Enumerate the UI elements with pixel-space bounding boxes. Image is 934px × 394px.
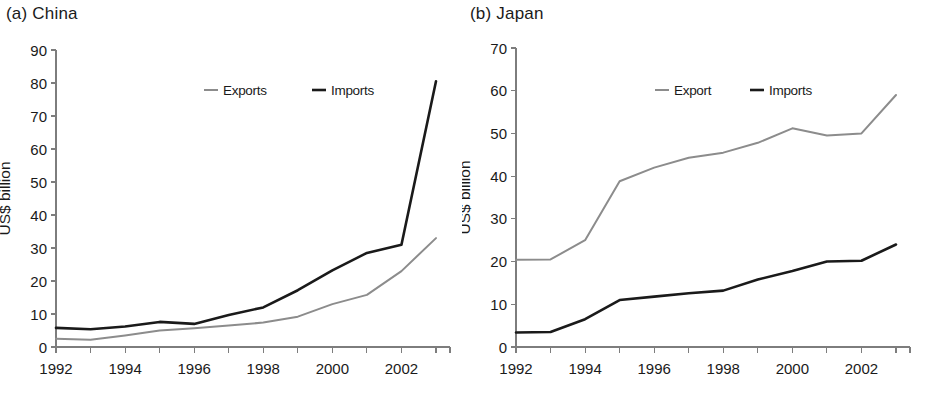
y-axis-title: US$ billion: [0, 161, 13, 235]
series-line-export: [516, 95, 896, 260]
chart-panel-china: (a) China 010203040506070809019921994199…: [0, 0, 467, 394]
line-chart-china: 0102030405060708090199219941996199820002…: [0, 0, 467, 394]
y-tick-label: 10: [490, 296, 507, 313]
y-tick-label: 70: [30, 108, 47, 125]
line-chart-japan: 010203040506070199219941996199820002002U…: [462, 0, 934, 394]
y-tick-label: 30: [30, 240, 47, 257]
y-tick-label: 50: [30, 174, 47, 191]
y-tick-label: 20: [30, 273, 47, 290]
y-tick-label: 0: [39, 339, 47, 356]
x-tick-label: 2000: [776, 360, 809, 377]
series-line-imports: [56, 81, 436, 329]
x-tick-label: 1992: [39, 360, 72, 377]
legend-label-imports: Imports: [769, 83, 812, 98]
chart-panel-japan: (b) Japan 010203040506070199219941996199…: [462, 0, 934, 394]
y-tick-label: 40: [490, 168, 507, 185]
y-axis-title: US$ billion: [462, 160, 473, 234]
y-tick-label: 50: [490, 125, 507, 142]
figure-root: (a) China 010203040506070809019921994199…: [0, 0, 934, 394]
y-tick-label: 30: [490, 210, 507, 227]
y-tick-label: 90: [30, 42, 47, 59]
legend-label-exports: Exports: [223, 83, 267, 98]
y-tick-label: 40: [30, 207, 47, 224]
y-tick-label: 60: [30, 141, 47, 158]
series-line-imports: [516, 244, 896, 332]
y-tick-label: 20: [490, 253, 507, 270]
x-tick-label: 1996: [637, 360, 670, 377]
series-line-exports: [56, 238, 436, 340]
x-tick-label: 1994: [568, 360, 601, 377]
legend-label-imports: Imports: [331, 83, 374, 98]
x-tick-label: 1996: [177, 360, 210, 377]
y-tick-label: 10: [30, 306, 47, 323]
x-tick-label: 1992: [499, 360, 532, 377]
y-tick-label: 70: [490, 40, 507, 57]
y-tick-label: 60: [490, 82, 507, 99]
x-tick-label: 2000: [316, 360, 349, 377]
x-tick-label: 2002: [845, 360, 878, 377]
x-tick-label: 2002: [385, 360, 418, 377]
x-tick-label: 1994: [108, 360, 141, 377]
y-tick-label: 0: [499, 339, 507, 356]
x-tick-label: 1998: [707, 360, 740, 377]
x-tick-label: 1998: [247, 360, 280, 377]
y-tick-label: 80: [30, 75, 47, 92]
legend-label-export: Export: [674, 83, 712, 98]
